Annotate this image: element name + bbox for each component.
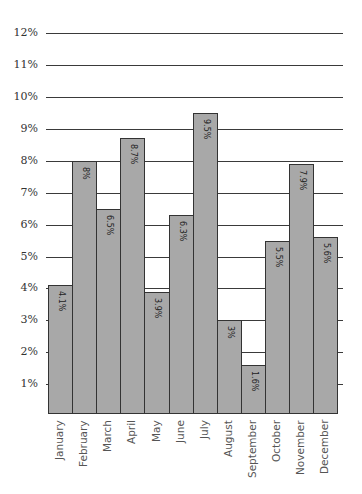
y-tick-label: 6% (0, 218, 38, 231)
bar-may: 3.9% (144, 292, 170, 414)
bar-value-label: 7.9% (297, 170, 306, 190)
bar-value-label: 5.5% (273, 247, 282, 267)
x-tick-label: December (318, 420, 330, 474)
gridline (46, 97, 343, 98)
x-tick-label: January (53, 420, 65, 460)
bar-value-label: 1.6% (249, 371, 258, 391)
x-tick-label: February (77, 420, 89, 467)
bar-january: 4.1% (48, 285, 73, 414)
x-tick-label: September (246, 420, 258, 478)
bar-june: 6.3% (169, 215, 194, 414)
x-tick-label: March (101, 420, 113, 452)
bar-value-label: 5.6% (321, 243, 330, 263)
bar-chart: 1%2%3%4%5%6%7%8%9%10%11%12%4.1%January8%… (0, 0, 362, 494)
bar-value-label: 9.5% (201, 119, 210, 139)
x-tick-label: November (294, 420, 306, 475)
y-tick-label: 1% (0, 377, 38, 390)
y-tick-label: 9% (0, 122, 38, 135)
bar-value-label: 3% (225, 326, 234, 339)
bar-april: 8.7% (120, 138, 145, 414)
gridline (46, 65, 343, 66)
bar-september: 1.6% (241, 365, 266, 414)
bar-value-label: 8.7% (128, 144, 137, 164)
bar-august: 3% (217, 320, 242, 414)
y-tick-label: 3% (0, 313, 38, 326)
y-tick-label: 2% (0, 345, 38, 358)
bar-value-label: 6.3% (177, 221, 186, 241)
x-tick-label: October (270, 420, 282, 462)
x-tick-label: May (150, 420, 162, 442)
gridline (46, 33, 343, 34)
y-tick-label: 5% (0, 250, 38, 263)
y-tick-label: 11% (0, 58, 38, 71)
x-tick-label: July (198, 420, 210, 439)
bar-value-label: 8% (80, 167, 89, 180)
y-tick-label: 8% (0, 154, 38, 167)
bar-october: 5.5% (265, 241, 290, 414)
bar-february: 8% (72, 161, 97, 414)
x-tick-label: April (125, 420, 137, 444)
bar-november: 7.9% (289, 164, 314, 414)
bar-value-label: 4.1% (56, 291, 65, 311)
bar-value-label: 6.5% (104, 215, 113, 235)
y-tick-label: 4% (0, 281, 38, 294)
bar-march: 6.5% (96, 209, 121, 414)
bar-december: 5.6% (313, 237, 338, 414)
bar-value-label: 3.9% (153, 298, 162, 318)
y-tick-label: 12% (0, 26, 38, 39)
y-tick-label: 7% (0, 186, 38, 199)
bar-july: 9.5% (193, 113, 218, 414)
x-tick-label: August (222, 420, 234, 457)
x-tick-label: June (174, 420, 186, 443)
y-tick-label: 10% (0, 90, 38, 103)
